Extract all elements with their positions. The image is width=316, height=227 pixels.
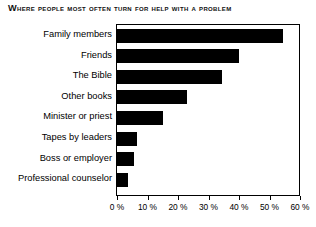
x-tick-label: 50 % <box>254 202 286 212</box>
value-axis: 0 %10 %20 %30 %40 %50 %60 % <box>0 0 316 227</box>
x-tick-mark <box>239 196 240 200</box>
x-tick-label: 0 % <box>101 202 133 212</box>
x-tick-mark <box>300 196 301 200</box>
x-tick-label: 10 % <box>132 202 164 212</box>
x-tick-label: 30 % <box>193 202 225 212</box>
x-tick-mark <box>178 196 179 200</box>
x-tick-mark <box>148 196 149 200</box>
x-tick-mark <box>117 196 118 200</box>
x-tick-label: 20 % <box>162 202 194 212</box>
x-tick-mark <box>270 196 271 200</box>
x-tick-label: 60 % <box>284 202 316 212</box>
x-tick-label: 40 % <box>223 202 255 212</box>
x-tick-mark <box>209 196 210 200</box>
bar-chart: Where People Most Often Turn for Help Wi… <box>0 0 316 227</box>
